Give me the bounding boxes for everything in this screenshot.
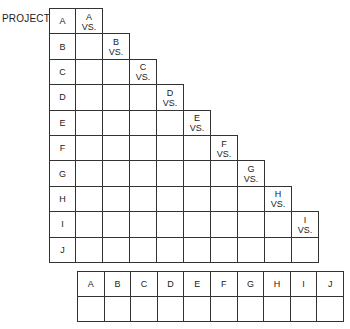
comparison-cell-a-g[interactable] — [75, 160, 103, 186]
vs-project: B — [113, 37, 119, 47]
vs-text: VS. — [109, 47, 124, 57]
comparison-cell-e-j[interactable] — [183, 237, 211, 263]
row-label-i: I — [49, 211, 76, 237]
comparison-cell-e-i[interactable] — [183, 211, 211, 237]
comparison-cell-d-i[interactable] — [156, 211, 184, 237]
vs-text: VS. — [271, 199, 286, 209]
comparison-cell-c-i[interactable] — [129, 211, 157, 237]
comparison-cell-a-h[interactable] — [75, 186, 103, 212]
vs-header-e: EVS. — [183, 110, 211, 136]
row-label-j: J — [49, 237, 76, 263]
row-label-c: C — [49, 59, 76, 85]
comparison-cell-i-j[interactable] — [291, 237, 319, 263]
comparison-cell-e-h[interactable] — [183, 186, 211, 212]
comparison-cell-b-h[interactable] — [102, 186, 130, 212]
tally-header-d: D — [157, 271, 185, 297]
vs-project: E — [194, 113, 200, 123]
comparison-cell-b-f[interactable] — [102, 135, 130, 161]
vs-header-g: GVS. — [237, 160, 265, 186]
comparison-cell-b-i[interactable] — [102, 211, 130, 237]
tally-value-i[interactable] — [290, 296, 318, 322]
vs-text: VS. — [136, 72, 151, 82]
vs-header-d: DVS. — [156, 84, 184, 110]
vs-header-h: HVS. — [264, 186, 292, 212]
vs-project: I — [304, 215, 307, 225]
comparison-cell-a-b[interactable] — [75, 33, 103, 59]
tally-value-j[interactable] — [316, 296, 344, 322]
tally-value-b[interactable] — [104, 296, 132, 322]
vs-project: H — [275, 189, 282, 199]
comparison-cell-d-f[interactable] — [156, 135, 184, 161]
comparison-cell-b-e[interactable] — [102, 110, 130, 136]
comparison-cell-a-d[interactable] — [75, 84, 103, 110]
comparison-cell-c-f[interactable] — [129, 135, 157, 161]
vs-project: A — [86, 12, 92, 22]
row-label-a: A — [49, 8, 76, 34]
comparison-cell-e-f[interactable] — [183, 135, 211, 161]
tally-value-g[interactable] — [237, 296, 265, 322]
comparison-cell-d-j[interactable] — [156, 237, 184, 263]
row-label-f: F — [49, 135, 76, 161]
comparison-cell-b-j[interactable] — [102, 237, 130, 263]
vs-text: VS. — [163, 98, 178, 108]
vs-header-a: AVS. — [75, 8, 103, 34]
comparison-cell-h-i[interactable] — [264, 211, 292, 237]
comparison-cell-a-e[interactable] — [75, 110, 103, 136]
comparison-cell-a-i[interactable] — [75, 211, 103, 237]
comparison-cell-b-g[interactable] — [102, 160, 130, 186]
comparison-cell-a-j[interactable] — [75, 237, 103, 263]
tally-value-d[interactable] — [157, 296, 185, 322]
comparison-cell-g-h[interactable] — [237, 186, 265, 212]
vs-text: VS. — [82, 22, 97, 32]
vs-text: VS. — [244, 174, 259, 184]
vs-text: VS. — [190, 123, 205, 133]
comparison-cell-b-c[interactable] — [102, 59, 130, 85]
comparison-cell-f-i[interactable] — [210, 211, 238, 237]
comparison-cell-g-j[interactable] — [237, 237, 265, 263]
comparison-cell-f-h[interactable] — [210, 186, 238, 212]
comparison-cell-f-j[interactable] — [210, 237, 238, 263]
tally-header-e: E — [183, 271, 211, 297]
vs-header-f: FVS. — [210, 135, 238, 161]
tally-value-f[interactable] — [210, 296, 238, 322]
row-label-d: D — [49, 84, 76, 110]
comparison-cell-d-g[interactable] — [156, 160, 184, 186]
tally-header-i: I — [290, 271, 318, 297]
comparison-cell-d-e[interactable] — [156, 110, 184, 136]
comparison-cell-a-c[interactable] — [75, 59, 103, 85]
comparison-cell-c-j[interactable] — [129, 237, 157, 263]
tally-value-c[interactable] — [130, 296, 158, 322]
tally-value-a[interactable] — [77, 296, 105, 322]
row-label-e: E — [49, 110, 76, 136]
vs-project: F — [221, 139, 227, 149]
comparison-cell-f-g[interactable] — [210, 160, 238, 186]
comparison-cell-c-g[interactable] — [129, 160, 157, 186]
vs-header-b: BVS. — [102, 33, 130, 59]
comparison-cell-g-i[interactable] — [237, 211, 265, 237]
vs-header-i: IVS. — [291, 211, 319, 237]
vs-text: VS. — [298, 225, 313, 235]
vs-text: VS. — [217, 149, 232, 159]
vs-header-c: CVS. — [129, 59, 157, 85]
row-label-h: H — [49, 186, 76, 212]
comparison-cell-h-j[interactable] — [264, 237, 292, 263]
comparison-cell-c-d[interactable] — [129, 84, 157, 110]
comparison-cell-c-h[interactable] — [129, 186, 157, 212]
tally-header-g: G — [237, 271, 265, 297]
row-label-g: G — [49, 160, 76, 186]
tally-header-h: H — [263, 271, 291, 297]
tally-header-a: A — [77, 271, 105, 297]
comparison-cell-a-f[interactable] — [75, 135, 103, 161]
comparison-cell-d-h[interactable] — [156, 186, 184, 212]
vs-project: G — [247, 164, 254, 174]
tally-value-e[interactable] — [183, 296, 211, 322]
row-label-b: B — [49, 33, 76, 59]
tally-header-f: F — [210, 271, 238, 297]
comparison-cell-c-e[interactable] — [129, 110, 157, 136]
comparison-cell-e-g[interactable] — [183, 160, 211, 186]
tally-value-h[interactable] — [263, 296, 291, 322]
tally-header-b: B — [104, 271, 132, 297]
vs-project: D — [167, 88, 174, 98]
comparison-cell-b-d[interactable] — [102, 84, 130, 110]
tally-header-j: J — [316, 271, 344, 297]
